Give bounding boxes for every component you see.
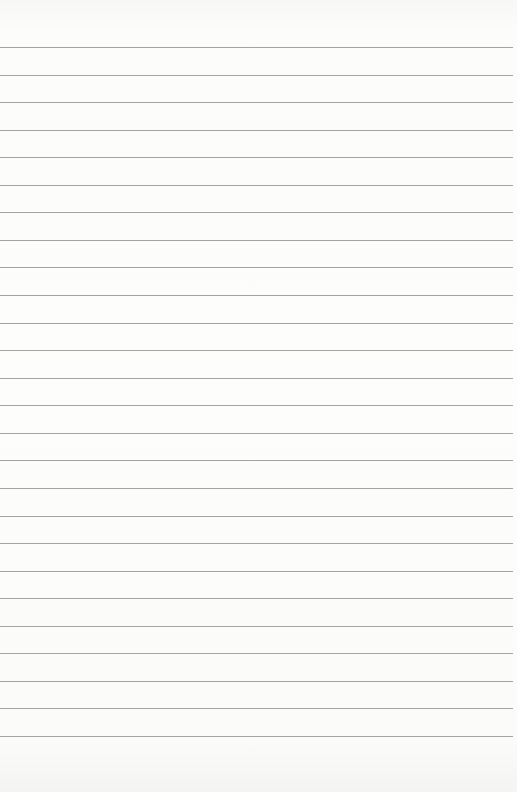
ruled-line: [0, 350, 513, 351]
ruled-line: [0, 212, 513, 213]
ruled-line: [0, 433, 513, 434]
ruled-line: [0, 75, 513, 76]
lined-paper-sheet: [0, 0, 517, 792]
ruled-line: [0, 240, 513, 241]
ruled-line: [0, 185, 513, 186]
ruled-line: [0, 626, 513, 627]
ruled-line: [0, 323, 513, 324]
ruled-line: [0, 516, 513, 517]
ruled-line: [0, 267, 513, 268]
ruled-line: [0, 681, 513, 682]
ruled-line: [0, 543, 513, 544]
ruled-line: [0, 157, 513, 158]
ruled-line: [0, 295, 513, 296]
ruled-line: [0, 405, 513, 406]
ruled-line: [0, 488, 513, 489]
ruled-line: [0, 736, 513, 737]
ruled-line: [0, 102, 513, 103]
ruled-line: [0, 708, 513, 709]
ruled-line: [0, 571, 513, 572]
ruled-line: [0, 598, 513, 599]
ruled-line: [0, 378, 513, 379]
ruled-line: [0, 653, 513, 654]
ruled-line: [0, 47, 513, 48]
ruled-line: [0, 460, 513, 461]
ruled-line: [0, 130, 513, 131]
